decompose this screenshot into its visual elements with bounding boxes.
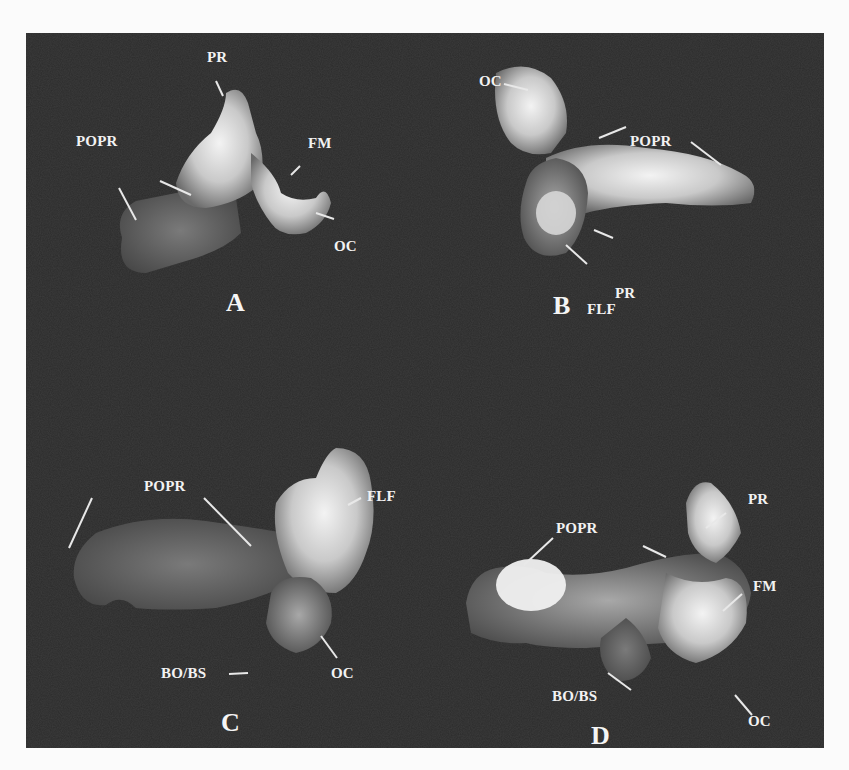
label-c-flf: FLF	[367, 488, 396, 505]
label-d-pr: PR	[748, 491, 768, 508]
panel-letter-c: C	[221, 708, 240, 738]
label-d-fm: FM	[753, 578, 777, 595]
label-b-oc: OC	[479, 73, 502, 90]
specimen-photographs	[26, 33, 824, 748]
label-d-popr: POPR	[556, 520, 598, 537]
label-b-popr: POPR	[630, 133, 672, 150]
panel-letter-b: B	[553, 291, 570, 321]
label-d-oc: OC	[748, 713, 771, 730]
label-d-bobs: BO/BS	[552, 688, 597, 705]
label-a-fm: FM	[308, 135, 332, 152]
label-a-popr: POPR	[76, 133, 118, 150]
label-c-oc: OC	[331, 665, 354, 682]
panel-letter-d: D	[591, 721, 610, 751]
panel-letter-a: A	[226, 288, 245, 318]
label-c-popr: POPR	[144, 478, 186, 495]
figure-plate: PR POPR FM OC A OC POPR PR FLF B POPR FL…	[26, 33, 824, 748]
label-a-pr: PR	[207, 49, 227, 66]
label-a-oc: OC	[334, 238, 357, 255]
label-c-bobs: BO/BS	[161, 665, 206, 682]
label-b-flf: FLF	[587, 301, 616, 318]
label-b-pr: PR	[615, 285, 635, 302]
